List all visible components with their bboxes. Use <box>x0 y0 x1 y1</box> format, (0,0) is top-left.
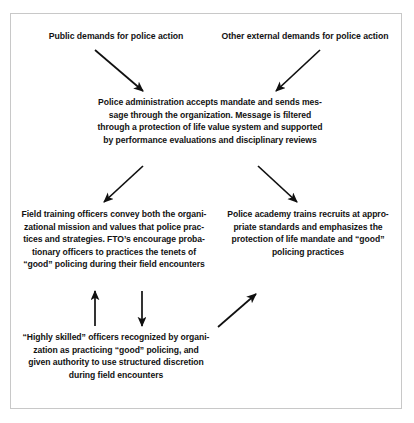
node-highly-skilled-officers: “Highly skilled” officers recognized by … <box>18 331 214 381</box>
diagram-figure: Public demands for police action Other e… <box>0 0 414 423</box>
node-field-training-officers: Field training officers convey both the … <box>18 208 210 271</box>
node-other-external-demands: Other external demands for police action <box>212 30 398 42</box>
node-police-academy: Police academy trains recruits at appro-… <box>218 208 398 258</box>
node-public-demands: Public demands for police action <box>26 30 206 42</box>
node-police-administration: Police administration accepts mandate an… <box>62 96 358 146</box>
